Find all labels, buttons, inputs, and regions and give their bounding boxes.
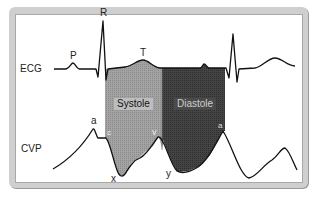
cardiac-cycle-diagram bbox=[0, 0, 319, 200]
r-wave-label: R bbox=[100, 8, 107, 18]
cvp-a2-wave-label: a bbox=[218, 122, 222, 130]
cvp-a-wave-label: a bbox=[91, 116, 97, 126]
diastole-region bbox=[162, 64, 225, 172]
cvp-c-wave-label: c bbox=[107, 129, 111, 137]
cvp-v-wave-label: v bbox=[152, 128, 157, 137]
cvp-y-descent-label: y bbox=[166, 169, 171, 179]
p-wave-label: P bbox=[70, 51, 77, 61]
ecg-row-label: ECG bbox=[20, 64, 42, 74]
diastole-label: Diastole bbox=[174, 98, 216, 110]
systole-label: Systole bbox=[114, 98, 153, 110]
t-wave-label: T bbox=[140, 48, 146, 58]
cvp-row-label: CVP bbox=[21, 144, 42, 154]
cvp-x-descent-label: x bbox=[111, 174, 116, 184]
